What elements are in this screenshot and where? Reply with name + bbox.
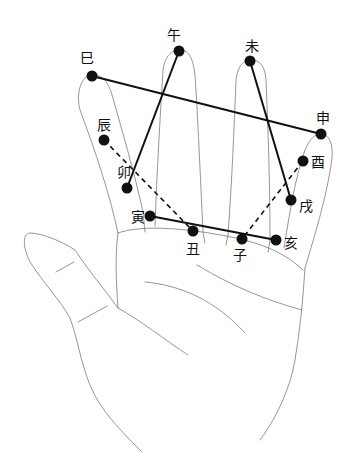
label-you: 酉 [311, 155, 325, 169]
palm-diagram: 巳午未申酉戌亥子丑寅卯辰 [0, 0, 356, 466]
dot-wu [174, 46, 185, 57]
label-zi: 子 [233, 248, 247, 262]
dot-xu [286, 195, 297, 206]
label-mao: 卯 [117, 165, 131, 179]
dot-shen [316, 129, 327, 140]
dot-chen [99, 135, 110, 146]
dot-you [298, 156, 309, 167]
dot-yin [145, 211, 156, 222]
label-si: 巳 [80, 51, 94, 65]
dot-si [87, 71, 98, 82]
dot-zi [237, 234, 248, 245]
label-chou: 丑 [186, 242, 200, 256]
solid-line-si-shen [92, 76, 321, 134]
branch-dots [87, 46, 327, 246]
label-chen: 辰 [97, 118, 111, 132]
hand-outline [0, 0, 356, 466]
solid-line-wei-xu [250, 61, 291, 200]
solid-line-wu-mao [127, 51, 179, 188]
dot-hai [271, 235, 282, 246]
label-wu: 午 [167, 28, 181, 42]
dot-chou [188, 226, 199, 237]
label-wei: 未 [245, 39, 259, 53]
label-xu: 戌 [299, 199, 313, 213]
dot-mao [122, 183, 133, 194]
label-yin: 寅 [131, 210, 145, 224]
label-shen: 申 [316, 111, 330, 125]
dot-wei [245, 56, 256, 67]
label-hai: 亥 [284, 236, 298, 250]
